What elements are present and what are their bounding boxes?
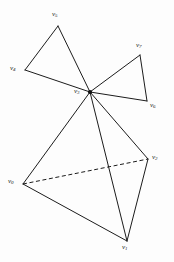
vertex-label-subscript-v3: 3 — [77, 90, 80, 95]
vertex-label-v4: v4 — [10, 65, 16, 72]
graph-edge-v3-v6 — [90, 92, 147, 101]
vertex-label-subscript-v0: 0 — [11, 180, 14, 185]
vertex-label-subscript-v6: 6 — [153, 104, 156, 109]
graph-edge-v1-v2 — [127, 159, 148, 241]
graph-edge-v3-v7 — [90, 55, 140, 92]
vertex-label-subscript-v4: 4 — [13, 67, 16, 72]
graph-edge-v4-v3 — [25, 70, 90, 92]
vertex-label-v5: v5 — [52, 11, 58, 18]
vertex-label-v6: v6 — [150, 102, 156, 109]
vertex-label-v3: v3 — [74, 88, 80, 95]
vertex-label-v2: v2 — [152, 154, 158, 161]
edges-layer — [23, 26, 148, 241]
graph-edge-v0-v1 — [23, 184, 127, 241]
vertex-dot-v3 — [88, 90, 92, 94]
vertex-label-subscript-v2: 2 — [155, 156, 158, 161]
graph-edge-v5-v4 — [25, 26, 58, 70]
vertex-label-subscript-v1: 1 — [125, 246, 128, 251]
graph-edge-v7-v6 — [140, 55, 147, 101]
graph-edge-v0-v2 — [23, 159, 148, 184]
figure-container: v0v1v2v3v4v5v6v7 — [0, 0, 174, 262]
vertex-label-subscript-v5: 5 — [55, 13, 58, 18]
graph-edge-v3-v0 — [23, 92, 90, 184]
vertex-label-subscript-v7: 7 — [139, 44, 142, 49]
graph-edge-v5-v3 — [58, 26, 90, 92]
graph-canvas — [0, 0, 174, 262]
vertex-label-v0: v0 — [8, 178, 14, 185]
vertices-layer — [88, 90, 92, 94]
vertex-label-v1: v1 — [122, 244, 128, 251]
vertex-label-v7: v7 — [136, 42, 142, 49]
